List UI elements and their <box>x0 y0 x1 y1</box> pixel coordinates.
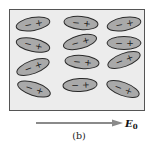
positive-charge-sign: + <box>126 38 134 48</box>
negative-charge-sign: − <box>72 17 80 28</box>
molecule-ellipse <box>107 37 141 50</box>
negative-charge-sign: − <box>115 38 123 48</box>
electric-field-arrow <box>36 120 123 127</box>
field-label: E0 <box>124 118 138 131</box>
positive-charge-sign: + <box>84 57 92 68</box>
negative-charge-sign: − <box>73 56 81 67</box>
positive-charge-sign: + <box>82 79 90 89</box>
negative-charge-sign: − <box>71 80 79 90</box>
figure-caption: (b) <box>72 130 86 141</box>
polarized-dielectric-diagram: −+−+−+−+−+−+−+−+−+−+−+−+ E0 (b) <box>0 0 151 149</box>
positive-charge-sign: + <box>83 18 91 29</box>
dipole-molecule: −+ <box>107 37 141 50</box>
